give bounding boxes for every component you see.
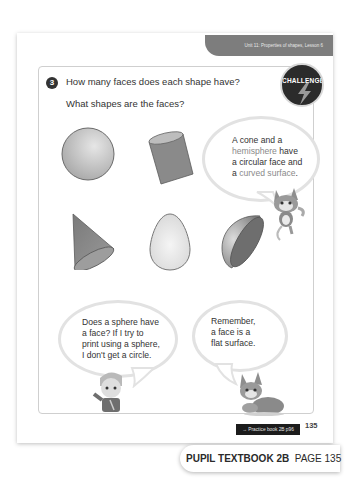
practice-book-link[interactable]: → Practice book 2B p96 (236, 424, 300, 435)
page-label: PAGE 135 (295, 453, 342, 464)
bubble-text: flat surface. (211, 338, 255, 349)
boy-character (92, 370, 128, 416)
book-page-label: PUPIL TEXTBOOK 2B PAGE 135 (180, 445, 340, 472)
book-title: PUPIL TEXTBOOK 2B (186, 453, 289, 464)
lightning-bolt-icon (294, 83, 314, 105)
speech-bubble-cat-bottom: Remember, a face is a flat surface. (192, 300, 288, 372)
cone-shape (70, 212, 120, 270)
bubble-text: have (277, 146, 298, 156)
bubble-tail (130, 366, 160, 388)
bubble-text: Remember, (211, 316, 255, 327)
bubble-text: a circular face and (232, 157, 302, 168)
speech-bubble-boy: Does a sphere have a face? If I try to p… (58, 300, 178, 378)
sphere-shape (60, 126, 116, 182)
cylinder-shape (145, 130, 195, 188)
bubble-text: . (296, 168, 298, 178)
cat-character-bottom (236, 372, 286, 416)
question-line-1: How many faces does each shape have? (66, 76, 240, 87)
question-number: 3 (46, 77, 58, 89)
keyword-curved-surface: curved surface (239, 168, 295, 178)
keyword-hemisphere: hemisphere (232, 146, 277, 156)
challenge-badge: CHALLENGE (280, 63, 324, 107)
bubble-text: A cone and a (232, 135, 302, 146)
egg-shape (148, 212, 192, 272)
bubble-text: a face is a (211, 327, 255, 338)
bubble-text: print using a sphere, (82, 339, 160, 350)
bubble-text: Does a sphere have (82, 317, 160, 328)
bubble-text: a face? If I try to (82, 328, 160, 339)
question-line-2: What shapes are the faces? (66, 98, 184, 109)
bubble-text: I don't get a circle. (82, 350, 160, 361)
hemisphere-shape (220, 212, 266, 272)
cat-character-top (268, 186, 308, 244)
page-number: 135 (305, 421, 318, 430)
lesson-header: Unit 11: Properties of shapes, Lesson 6 (205, 35, 333, 56)
